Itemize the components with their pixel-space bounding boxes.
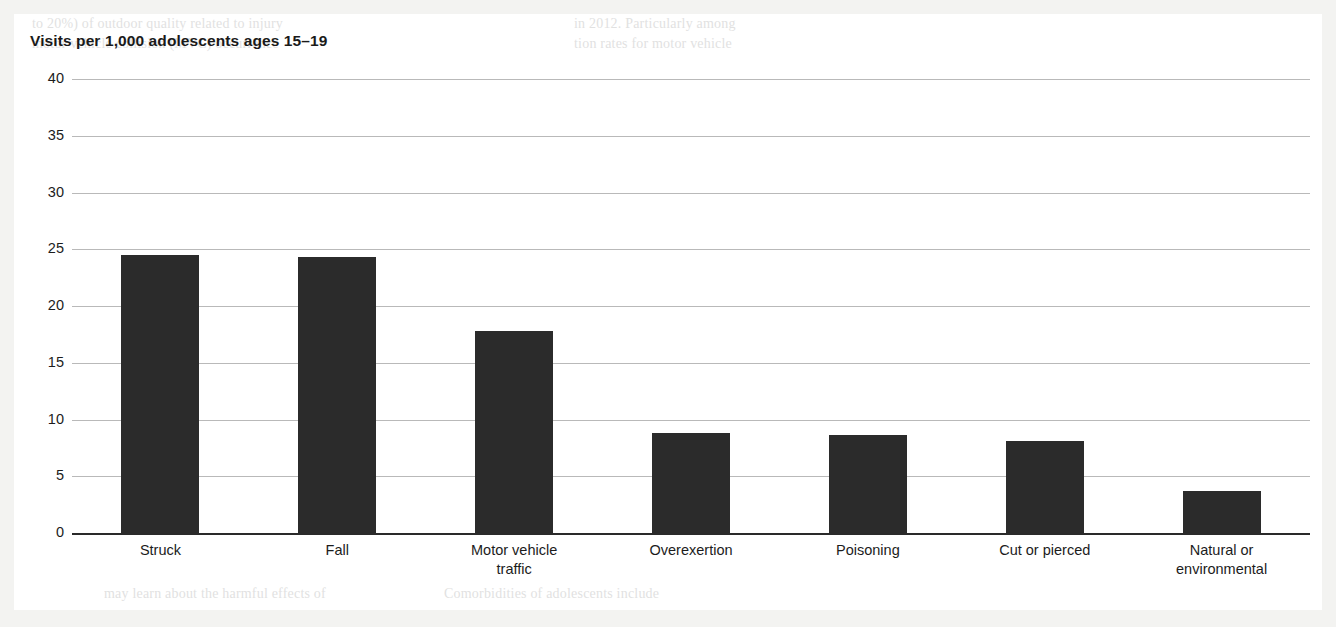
y-axis-tick-label: 15 [18, 354, 64, 370]
x-axis-label-line: Fall [249, 541, 426, 560]
x-axis-label: Natural orenvironmental [1133, 541, 1310, 579]
bar[interactable] [475, 331, 553, 533]
page-bleed-text: in 2012. Particularly among [574, 16, 736, 32]
bar-slot [1133, 79, 1310, 533]
bar[interactable] [652, 433, 730, 533]
y-axis-tick-label: 40 [18, 70, 64, 86]
bar-slot [603, 79, 780, 533]
bar-slot [249, 79, 426, 533]
chart-figure: to 20%) of outdoor quality related to in… [14, 14, 1322, 610]
bar[interactable] [298, 257, 376, 533]
x-axis-label-line: Natural or [1133, 541, 1310, 560]
bar[interactable] [1006, 441, 1084, 533]
bar-series [72, 79, 1310, 533]
x-axis-label-line: traffic [426, 560, 603, 579]
page-bleed-text: tion rates for motor vehicle [574, 36, 732, 52]
x-axis-label: Poisoning [779, 541, 956, 579]
x-axis-label-line: environmental [1133, 560, 1310, 579]
x-axis-label-line: Motor vehicle [426, 541, 603, 560]
page-bleed-text: may learn about the harmful effects of [104, 586, 326, 602]
x-axis-label-line: Struck [72, 541, 249, 560]
page-bleed-text: to 20%) of outdoor quality related to in… [32, 16, 283, 32]
bar-slot [426, 79, 603, 533]
bar[interactable] [121, 255, 199, 533]
axis-baseline [72, 533, 1310, 535]
bar-slot [72, 79, 249, 533]
x-axis-label: Motor vehicletraffic [426, 541, 603, 579]
bar[interactable] [1183, 491, 1261, 533]
y-axis-tick-label: 20 [18, 297, 64, 313]
x-axis-label: Overexertion [603, 541, 780, 579]
x-axis-label-line: Cut or pierced [956, 541, 1133, 560]
x-axis-label: Fall [249, 541, 426, 579]
y-axis-tick-label: 10 [18, 411, 64, 427]
y-axis-tick-label: 5 [18, 467, 64, 483]
x-axis-labels: StruckFallMotor vehicletrafficOverexerti… [72, 541, 1310, 579]
bar[interactable] [829, 435, 907, 533]
x-axis-label-line: Poisoning [779, 541, 956, 560]
x-axis-label-line: Overexertion [603, 541, 780, 560]
y-axis-tick-label: 0 [18, 524, 64, 540]
y-axis-tick-label: 35 [18, 127, 64, 143]
bar-slot [956, 79, 1133, 533]
bar-slot [779, 79, 956, 533]
y-axis-tick-label: 30 [18, 184, 64, 200]
y-axis-tick-label: 25 [18, 240, 64, 256]
chart-title: Visits per 1,000 adolescents ages 15–19 [30, 32, 327, 50]
page-bleed-text: Comorbidities of adolescents include [444, 586, 659, 602]
x-axis-label: Struck [72, 541, 249, 579]
plot-area: 0510152025303540 [72, 79, 1310, 533]
x-axis-label: Cut or pierced [956, 541, 1133, 579]
